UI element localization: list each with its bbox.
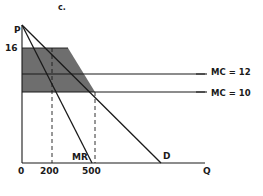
- quantity-axis-label: Q: [203, 167, 211, 176]
- economics-diagram: c. P Q 16 0 200 500 MR D MC = 12 MC = 10: [0, 0, 263, 196]
- mc-10-label: MC = 10: [211, 89, 251, 98]
- shaded-surplus-region: [22, 48, 95, 92]
- panel-letter: c.: [58, 4, 66, 12]
- demand-curve: [22, 25, 161, 163]
- price-tick-label-16: 16: [5, 44, 18, 53]
- marginal-revenue-curve-label: MR: [72, 153, 88, 162]
- quantity-tick-label-0: 0: [18, 167, 24, 176]
- marginal-revenue-curve: [22, 25, 92, 163]
- mc-12-label: MC = 12: [211, 68, 251, 77]
- quantity-tick-label-500: 500: [82, 167, 101, 176]
- price-axis-label: P: [14, 26, 21, 35]
- quantity-tick-label-200: 200: [40, 167, 59, 176]
- demand-curve-label: D: [163, 152, 170, 161]
